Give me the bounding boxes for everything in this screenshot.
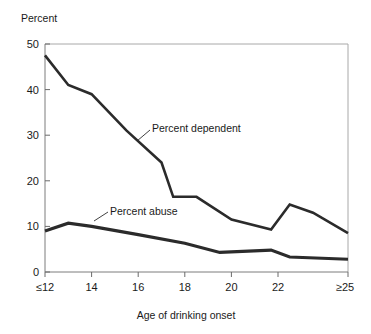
y-tick-label-20: 20 [27,175,39,187]
annotation-percent-abuse: Percent abuse [94,205,178,221]
y-tick-labels: 0 10 20 30 40 50 [27,38,39,278]
y-tick-marks [45,44,50,272]
y-tick-label-40: 40 [27,84,39,96]
y-tick-label-0: 0 [33,266,39,278]
plot-frame [45,44,348,272]
x-tick-marks [45,272,348,277]
x-tick-label-18: 18 [179,281,191,293]
y-tick-label-50: 50 [27,38,39,50]
chart-figure: 0 10 20 30 40 50 ≤12 14 16 18 20 22 ≥25 … [0,0,371,334]
x-axis-title: Age of drinking onset [137,309,236,321]
x-tick-labels: ≤12 14 16 18 20 22 ≥25 [36,281,354,293]
series-percent-abuse-line [45,223,348,259]
line-chart-canvas: 0 10 20 30 40 50 ≤12 14 16 18 20 22 ≥25 … [0,0,371,334]
x-tick-label-12: ≤12 [36,281,54,293]
y-tick-label-30: 30 [27,129,39,141]
series-percent-dependent-line [45,55,348,233]
x-tick-label-25: ≥25 [336,281,354,293]
y-tick-label-10: 10 [27,220,39,232]
y-axis-title: Percent [21,12,57,24]
annotation-label-abuse: Percent abuse [110,205,178,217]
annotation-label-dependent: Percent dependent [152,122,241,134]
leader-line-dependent [137,130,150,141]
x-tick-label-16: 16 [132,281,144,293]
annotation-percent-dependent: Percent dependent [137,122,241,141]
x-tick-label-14: 14 [85,281,97,293]
x-tick-label-20: 20 [225,281,237,293]
x-tick-label-22: 22 [272,281,284,293]
leader-line-abuse [94,212,108,221]
